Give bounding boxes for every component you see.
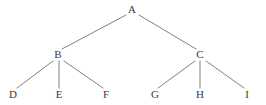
tree-edge-a-c xyxy=(139,15,196,49)
tree-node-e: E xyxy=(51,89,67,100)
tree-edge-a-b xyxy=(62,15,126,49)
tree-node-a: A xyxy=(124,4,140,15)
tree-edge-b-f xyxy=(64,61,103,88)
tree-edges-layer xyxy=(0,0,266,105)
tree-node-i: I xyxy=(239,89,255,100)
tree-node-b: B xyxy=(50,49,66,60)
tree-node-d: D xyxy=(5,89,21,100)
tree-node-f: F xyxy=(98,89,114,100)
tree-edge-b-d xyxy=(17,61,53,88)
tree-node-g: G xyxy=(147,89,163,100)
tree-diagram: ABCDEFGHI xyxy=(0,0,266,105)
tree-edge-c-g xyxy=(158,61,195,88)
tree-node-h: H xyxy=(192,89,208,100)
tree-node-c: C xyxy=(192,49,208,60)
tree-edge-c-i xyxy=(206,61,244,88)
